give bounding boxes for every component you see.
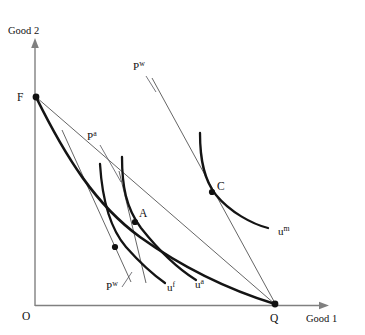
point-marker-F [33,94,40,101]
point-label-C: C [217,180,225,192]
ua-sup: a [201,277,205,286]
curve-label-uf: uf [167,280,176,293]
indifference-curve-um [200,133,268,228]
curve-label-ua: ua [195,277,205,290]
pa-sup: a [93,129,97,138]
price-line-label-pa: Pa [87,129,97,142]
free-trade-chord [36,97,276,305]
point-marker-Q [272,301,279,308]
point-marker-B [112,244,118,250]
point-label-A: A [139,207,148,219]
origin-label: O [22,310,30,322]
point-marker-C [209,189,215,195]
indifference-curve-ua [122,157,196,280]
x-axis-arrow-icon [319,302,329,310]
y-axis-label: Good 2 [8,25,39,36]
point-marker-A [132,219,138,225]
leader-pw-top [146,76,156,92]
leader-pw-bottom [122,272,132,287]
point-label-Q: Q [270,312,279,324]
leader-pa [100,145,121,182]
curve-label-um: um [278,224,290,237]
world-price-line-lower [62,130,131,282]
price-line-label-pw-bottom: Pw [106,279,118,292]
um-sup: m [284,224,290,233]
x-axis-label: Good 1 [306,313,337,324]
uf-sup: f [173,280,176,289]
autarky-price-line [119,171,146,283]
pw-top-sup: w [139,59,145,68]
point-label-F: F [17,91,23,103]
economics-diagram: Good 2 Good 1 O F A C Q Pw Pa Pw uf ua u… [0,0,365,335]
price-line-label-pw-top: Pw [133,59,145,72]
figure-container: Good 2 Good 1 O F A C Q Pw Pa Pw uf ua u… [0,0,365,335]
pw-bottom-sup: w [112,279,118,288]
y-axis-arrow-icon [31,38,39,48]
